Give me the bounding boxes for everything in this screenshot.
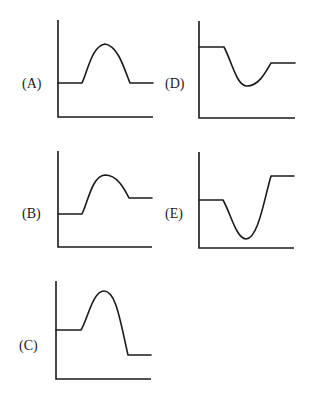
curve-d: [199, 47, 295, 86]
label-c: (C): [19, 338, 38, 354]
axes-b: [58, 151, 152, 247]
curve-a: [58, 44, 153, 83]
axes-a: [58, 20, 153, 117]
label-d: (D): [165, 76, 185, 92]
curve-b: [58, 175, 152, 214]
panel-d: (D): [165, 21, 295, 118]
panel-a: (A): [22, 20, 153, 117]
curve-c: [56, 291, 151, 355]
label-e: (E): [165, 206, 183, 222]
panel-e: (E): [165, 152, 294, 248]
curve-e: [199, 176, 294, 239]
label-a: (A): [22, 76, 42, 92]
panel-b: (B): [22, 151, 152, 247]
panel-c: (C): [19, 281, 151, 379]
graph-options-figure: (A) (B) (C) (D) (E): [0, 0, 314, 401]
axes-d: [199, 21, 295, 118]
label-b: (B): [22, 206, 41, 222]
